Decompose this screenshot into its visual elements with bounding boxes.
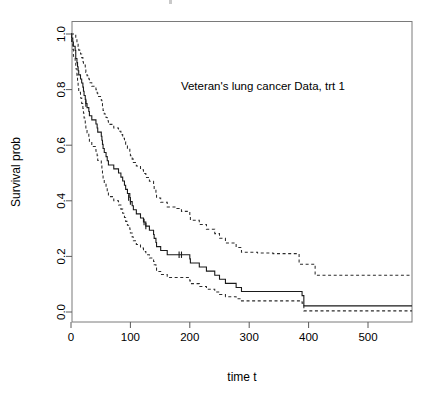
y-tick-label: 1.0 bbox=[55, 26, 67, 42]
x-tick-label: 0 bbox=[68, 331, 74, 343]
x-tick-label: 300 bbox=[240, 331, 259, 343]
x-axis-title: time t bbox=[227, 370, 257, 384]
y-axis-title: Survival prob bbox=[9, 137, 23, 207]
survival-plot-svg: 0100200300400500 0.00.20.40.60.81.0 Vete… bbox=[0, 0, 429, 398]
x-tick-label: 400 bbox=[299, 331, 318, 343]
x-tick-label: 200 bbox=[180, 331, 199, 343]
chart-annotation: Veteran's lung cancer Data, trt 1 bbox=[181, 80, 345, 92]
plot-annotations: Veteran's lung cancer Data, trt 1 bbox=[181, 80, 345, 92]
cut-off-title-artifact bbox=[169, 0, 172, 4]
y-tick-label: 0.4 bbox=[55, 192, 67, 209]
chart-root: 0100200300400500 0.00.20.40.60.81.0 Vete… bbox=[0, 0, 429, 398]
x-tick-label: 500 bbox=[358, 331, 377, 343]
y-tick-label: 0.2 bbox=[55, 248, 67, 264]
x-tick-label: 100 bbox=[121, 331, 140, 343]
y-tick-label: 0.8 bbox=[55, 82, 67, 98]
y-tick-label: 0.6 bbox=[55, 137, 67, 153]
y-tick-label: 0.0 bbox=[55, 304, 67, 320]
